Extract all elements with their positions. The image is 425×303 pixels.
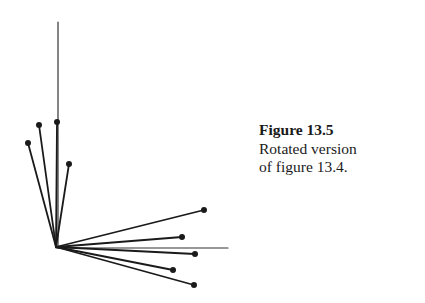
caption-line-1: Rotated version [259,140,357,159]
vector-endpoint-dot [36,122,42,128]
vector-endpoint-dot [191,282,197,288]
vector-endpoint-dot [201,207,207,213]
vector-endpoint-dot [25,140,31,146]
vector-diagram [0,0,425,303]
axes [56,22,228,248]
vector-2 [39,125,56,247]
caption-line-2: of figure 13.4. [259,158,357,177]
vector-endpoint-dot [179,234,185,240]
vector-endpoint-dot [192,251,198,257]
vector-endpoint-dot [170,267,176,273]
vector-3 [56,122,57,247]
caption-title: Figure 13.5 [259,121,357,140]
vector-endpoint-dot [66,161,72,167]
vectors [25,119,207,288]
vector-endpoint-dot [54,119,60,125]
figure-caption: Figure 13.5 Rotated version of figure 13… [259,121,357,177]
vector-1 [28,143,56,247]
